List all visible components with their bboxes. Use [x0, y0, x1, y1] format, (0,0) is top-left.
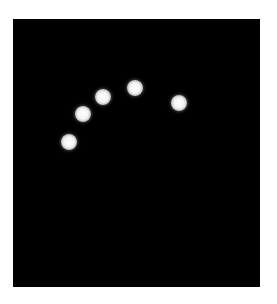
light-dot	[171, 95, 187, 111]
light-dot	[95, 89, 111, 105]
light-dot	[61, 134, 77, 150]
light-dot	[127, 80, 143, 96]
light-dot	[75, 106, 91, 122]
black-panel	[13, 19, 260, 287]
